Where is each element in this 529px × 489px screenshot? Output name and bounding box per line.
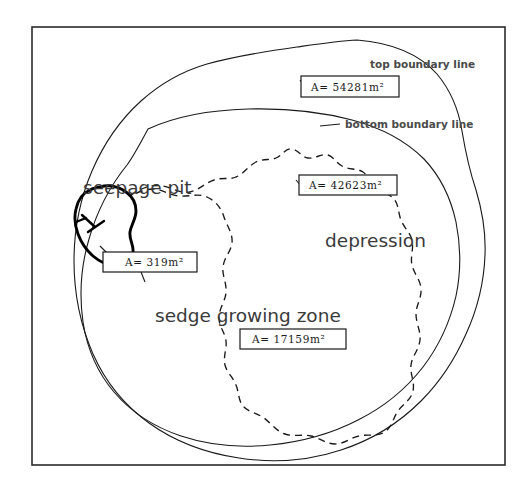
bottom-boundary-line-label: bottom boundary line [345, 118, 473, 130]
area-box-seepage-pit: A= 319m² [103, 252, 197, 272]
figure-frame [32, 27, 505, 465]
sedge-growing-zone-label: sedge growing zone [155, 305, 341, 326]
seepage-pit-label: seepage pit [83, 177, 192, 198]
bottom-boundary-line [81, 109, 460, 446]
area-box-sedge-zone: A= 17159m² [240, 329, 346, 349]
depression-label: depression [325, 230, 426, 251]
area-box-text: A= 54281m² [310, 81, 384, 93]
area-box-top-boundary: A= 54281m² [301, 76, 399, 97]
area-box-text: A= 17159m² [251, 333, 325, 345]
map-svg: A= 54281m² A= 42623m² A= 319m² A= 17159m… [0, 0, 529, 489]
seepage-pit-detail [76, 215, 104, 232]
top-boundary-line-label: top boundary line [370, 58, 475, 70]
figure-canvas: A= 54281m² A= 42623m² A= 319m² A= 17159m… [0, 0, 529, 489]
area-box-depression: A= 42623m² [299, 175, 397, 195]
area-box-text: A= 319m² [124, 256, 184, 268]
leader-bottom-boundary [320, 124, 340, 126]
area-box-text: A= 42623m² [308, 179, 382, 191]
